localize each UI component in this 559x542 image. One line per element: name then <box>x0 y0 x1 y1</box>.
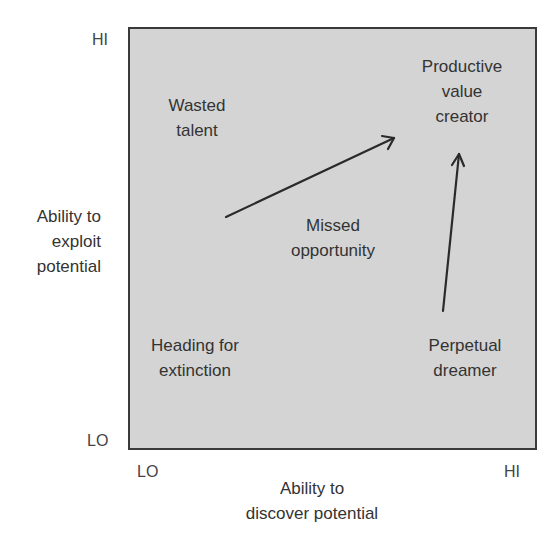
quadrant-line: Perpetual <box>420 333 510 358</box>
quadrant-productive-value-creator: Productive value creator <box>417 54 507 129</box>
quadrant-line: dreamer <box>420 358 510 383</box>
quadrant-line: Missed <box>278 213 388 238</box>
x-axis-title: Ability to discover potential <box>232 476 392 526</box>
y-axis-hi-label: HI <box>92 31 108 49</box>
quadrant-line: creator <box>417 104 507 129</box>
quadrant-line: opportunity <box>278 238 388 263</box>
y-axis-title-line-1: Ability to <box>20 204 101 229</box>
quadrant-wasted-talent: Wasted talent <box>162 93 232 143</box>
quadrant-line: extinction <box>140 358 250 383</box>
quadrant-line: Productive <box>417 54 507 79</box>
y-axis-title-line-2: exploit <box>20 229 101 254</box>
quadrant-perpetual-dreamer: Perpetual dreamer <box>420 333 510 383</box>
x-axis-title-line-2: discover potential <box>232 501 392 526</box>
quadrant-line: talent <box>162 118 232 143</box>
y-axis-title-line-3: potential <box>20 254 101 279</box>
quadrant-line: Wasted <box>162 93 232 118</box>
x-axis-hi-label: HI <box>504 463 520 481</box>
quadrant-line: value <box>417 79 507 104</box>
quadrant-missed-opportunity: Missed opportunity <box>278 213 388 263</box>
x-axis-title-line-1: Ability to <box>232 476 392 501</box>
quadrant-heading-for-extinction: Heading for extinction <box>140 333 250 383</box>
y-axis-lo-label: LO <box>87 432 108 450</box>
y-axis-title: Ability to exploit potential <box>20 204 101 279</box>
quadrant-line: Heading for <box>140 333 250 358</box>
x-axis-lo-label: LO <box>137 463 158 481</box>
